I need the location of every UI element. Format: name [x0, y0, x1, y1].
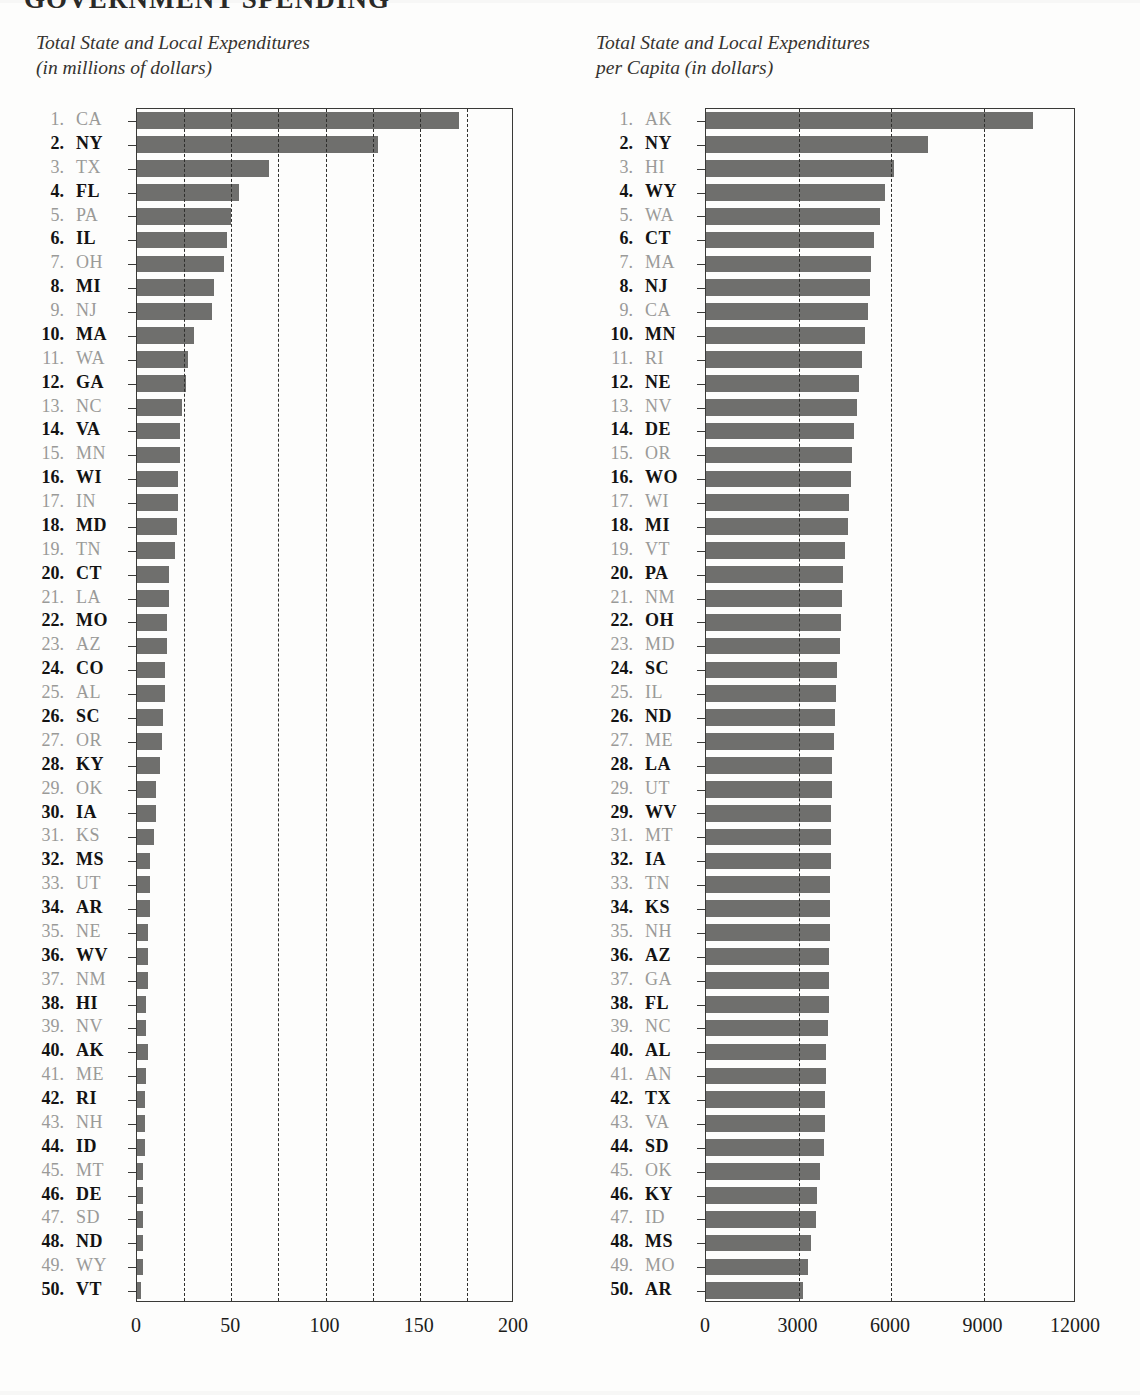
category-label[interactable]: 2.NY [593, 132, 705, 156]
category-label[interactable]: 33.TN [593, 872, 705, 896]
bar[interactable] [137, 590, 169, 607]
category-label[interactable]: 16.WO [593, 466, 705, 490]
bar[interactable] [706, 447, 852, 464]
bar[interactable] [706, 805, 831, 822]
bar-row[interactable] [137, 1279, 512, 1303]
bar-row[interactable] [137, 778, 512, 802]
bar-row[interactable] [137, 754, 512, 778]
bar[interactable] [137, 351, 188, 368]
bar-row[interactable] [706, 730, 1074, 754]
category-label[interactable]: 37.GA [593, 968, 705, 992]
bar[interactable] [706, 303, 868, 320]
bar[interactable] [137, 136, 378, 153]
bar-row[interactable] [706, 1231, 1074, 1255]
category-label[interactable]: 21.NM [593, 586, 705, 610]
category-label[interactable]: 29.WV [593, 801, 705, 825]
category-label[interactable]: 36.WV [24, 944, 136, 968]
category-label[interactable]: 42.RI [24, 1087, 136, 1111]
bar[interactable] [706, 1282, 803, 1299]
bar-row[interactable] [706, 682, 1074, 706]
bar-row[interactable] [706, 969, 1074, 993]
bar-row[interactable] [137, 1040, 512, 1064]
category-label[interactable]: 49.WY [24, 1254, 136, 1278]
category-label[interactable]: 27.ME [593, 729, 705, 753]
bar[interactable] [706, 614, 841, 631]
category-label[interactable]: 16.WI [24, 466, 136, 490]
category-label[interactable]: 27.OR [24, 729, 136, 753]
bar[interactable] [137, 1068, 146, 1085]
bar-row[interactable] [706, 1136, 1074, 1160]
category-label[interactable]: 32.IA [593, 848, 705, 872]
bar-row[interactable] [706, 1160, 1074, 1184]
category-label[interactable]: 47.ID [593, 1206, 705, 1230]
bar-row[interactable] [137, 157, 512, 181]
bar[interactable] [137, 924, 148, 941]
bar[interactable] [137, 1187, 143, 1204]
category-label[interactable]: 5.WA [593, 204, 705, 228]
bar[interactable] [706, 279, 870, 296]
category-label[interactable]: 6.IL [24, 227, 136, 251]
bar[interactable] [706, 1139, 824, 1156]
category-label[interactable]: 2.NY [24, 132, 136, 156]
bar[interactable] [137, 1163, 143, 1180]
bar-row[interactable] [706, 300, 1074, 324]
bar-row[interactable] [706, 945, 1074, 969]
category-label[interactable]: 1.CA [24, 108, 136, 132]
bar[interactable] [706, 1259, 808, 1276]
bar-row[interactable] [137, 1064, 512, 1088]
bar-row[interactable] [137, 1207, 512, 1231]
bar[interactable] [137, 757, 160, 774]
bar-row[interactable] [706, 252, 1074, 276]
category-label[interactable]: 8.MI [24, 275, 136, 299]
category-label[interactable]: 37.NM [24, 968, 136, 992]
category-label[interactable]: 14.DE [593, 418, 705, 442]
category-label[interactable]: 10.MA [24, 323, 136, 347]
bar-row[interactable] [706, 467, 1074, 491]
bar[interactable] [137, 256, 224, 273]
bar-row[interactable] [137, 897, 512, 921]
bar-row[interactable] [137, 109, 512, 133]
bar[interactable] [137, 423, 180, 440]
category-label[interactable]: 15.MN [24, 442, 136, 466]
category-label[interactable]: 7.MA [593, 251, 705, 275]
bar[interactable] [137, 733, 162, 750]
bar[interactable] [706, 733, 834, 750]
bar-row[interactable] [706, 802, 1074, 826]
category-label[interactable]: 45.OK [593, 1159, 705, 1183]
bar-row[interactable] [706, 563, 1074, 587]
bar-row[interactable] [137, 921, 512, 945]
bar-row[interactable] [137, 873, 512, 897]
bar-row[interactable] [706, 1016, 1074, 1040]
bar[interactable] [137, 1091, 145, 1108]
bar-row[interactable] [137, 443, 512, 467]
bar-row[interactable] [137, 252, 512, 276]
bar[interactable] [137, 447, 180, 464]
category-label[interactable]: 14.VA [24, 418, 136, 442]
bar-row[interactable] [137, 587, 512, 611]
bar-row[interactable] [137, 658, 512, 682]
bar[interactable] [706, 781, 832, 798]
bar-row[interactable] [706, 443, 1074, 467]
bar-row[interactable] [706, 1064, 1074, 1088]
bar-row[interactable] [137, 610, 512, 634]
category-label[interactable]: 13.NV [593, 395, 705, 419]
bar[interactable] [706, 566, 843, 583]
category-label[interactable]: 24.SC [593, 657, 705, 681]
bar-row[interactable] [706, 706, 1074, 730]
category-label[interactable]: 24.CO [24, 657, 136, 681]
category-label[interactable]: 12.GA [24, 371, 136, 395]
category-label[interactable]: 41.AN [593, 1063, 705, 1087]
bar[interactable] [706, 399, 857, 416]
bar[interactable] [706, 685, 836, 702]
category-label[interactable]: 9.CA [593, 299, 705, 323]
bar[interactable] [706, 638, 840, 655]
category-label[interactable]: 17.IN [24, 490, 136, 514]
bar-row[interactable] [706, 1088, 1074, 1112]
bar-row[interactable] [706, 276, 1074, 300]
category-label[interactable]: 39.NV [24, 1015, 136, 1039]
bar-row[interactable] [137, 133, 512, 157]
bar-row[interactable] [706, 109, 1074, 133]
bar[interactable] [137, 614, 167, 631]
bar[interactable] [706, 900, 830, 917]
bar[interactable] [137, 853, 150, 870]
